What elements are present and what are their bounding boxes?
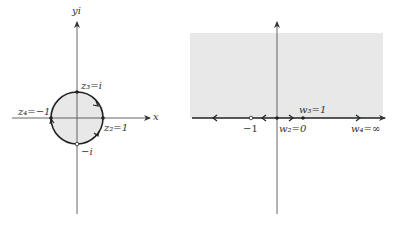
point-z2: [101, 116, 105, 120]
point-w2: [275, 116, 279, 120]
right-plane: [190, 22, 385, 214]
point-w3: [301, 116, 305, 120]
upper-half-plane: [190, 33, 383, 118]
label-z3: z₃=i: [81, 81, 102, 91]
conformal-map-diagram: yi x z₃=i z₂=1 z₄=−1 −i w₃=1 w₂=0 w₄=∞ −…: [0, 0, 395, 226]
label-minus-one: −1: [243, 124, 258, 134]
label-z4: z₄=−1: [18, 107, 50, 117]
y-axis-label: yi: [72, 6, 81, 16]
point-z3: [75, 90, 79, 94]
point-minus-one: [249, 116, 253, 120]
label-minus-i: −i: [81, 147, 93, 157]
label-w4: w₄=∞: [351, 124, 380, 134]
x-axis-label: x: [153, 112, 159, 122]
diagram-canvas: [0, 0, 395, 226]
left-plane: [12, 22, 150, 214]
label-w2: w₂=0: [279, 124, 306, 134]
label-z2: z₂=1: [104, 123, 128, 133]
point-minus-i: [75, 142, 79, 146]
label-w3: w₃=1: [299, 105, 326, 115]
